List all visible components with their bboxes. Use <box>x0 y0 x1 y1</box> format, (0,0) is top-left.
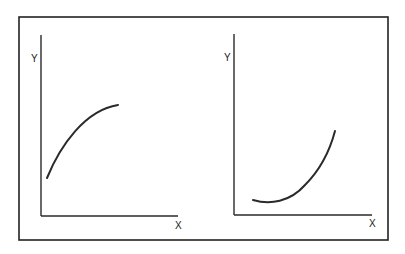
outer-frame <box>19 17 388 240</box>
right-curve <box>253 131 335 202</box>
right-panel: Y X <box>224 34 376 229</box>
left-x-label: X <box>175 220 182 231</box>
diagram-canvas: Y X Y X <box>0 0 405 254</box>
right-x-label: X <box>369 218 376 229</box>
left-curve <box>47 105 118 178</box>
right-y-label: Y <box>224 52 231 63</box>
left-y-label: Y <box>31 53 38 64</box>
left-panel: Y X <box>31 35 182 231</box>
